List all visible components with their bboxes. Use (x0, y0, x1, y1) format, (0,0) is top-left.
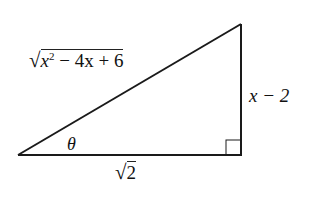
adjacent-side-label: √2 (115, 160, 136, 185)
radical-sign: √ (115, 160, 127, 184)
radical-sign: √ (29, 48, 41, 72)
right-angle-marker (226, 140, 241, 155)
angle-theta-label: θ (67, 134, 76, 155)
hypotenuse-line (18, 24, 241, 155)
hypotenuse-label: √x2 − 4x + 6 (29, 48, 123, 73)
opposite-side-label: x − 2 (249, 85, 289, 107)
